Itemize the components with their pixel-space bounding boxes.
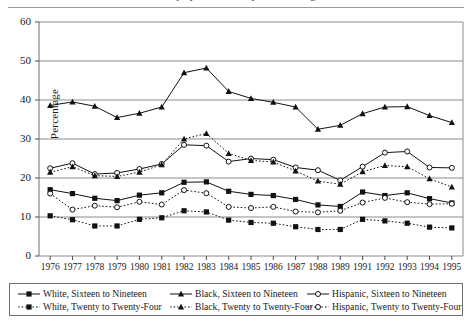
legend-item: Hispanic, Twenty to Twenty-Four — [332, 301, 461, 312]
chart-legend: White, Sixteen to NineteenBlack, Sixteen… — [9, 283, 463, 316]
y-tick-label: 50 — [9, 54, 31, 66]
y-tick-label: 30 — [9, 132, 31, 144]
legend-item: Black, Twenty to Twenty-Four — [195, 301, 313, 312]
legend-item-label: White, Sixteen to Nineteen — [43, 288, 147, 299]
legend-item-label: Hispanic, Sixteen to Nineteen — [332, 288, 447, 299]
legend-item-label: Hispanic, Twenty to Twenty-Four — [332, 301, 461, 312]
chart-figure: Unemployment Rates by Race and Age Perce… — [0, 0, 472, 321]
y-tick-label: 60 — [9, 15, 31, 27]
legend-item-label: Black, Twenty to Twenty-Four — [195, 301, 313, 312]
y-tick-label: 20 — [9, 171, 31, 183]
y-tick-label: 10 — [9, 210, 31, 222]
y-tick-label: 40 — [9, 93, 31, 105]
legend-item: Black, Sixteen to Nineteen — [195, 288, 298, 299]
legend-item: White, Sixteen to Nineteen — [43, 288, 147, 299]
legend-item: White, Twenty to Twenty-Four — [43, 301, 162, 312]
legend-item: Hispanic, Sixteen to Nineteen — [332, 288, 447, 299]
x-tick-label: 1995 — [435, 262, 469, 272]
legend-item-label: Black, Sixteen to Nineteen — [195, 288, 298, 299]
y-tick-label: 0 — [9, 249, 31, 261]
legend-item-label: White, Twenty to Twenty-Four — [43, 301, 162, 312]
chart-canvas — [0, 0, 472, 321]
